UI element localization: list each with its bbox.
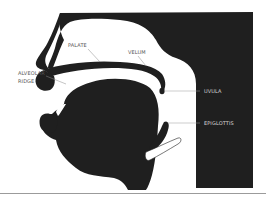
uvula-shape [159,88,164,94]
label-alveolar-line2: RIDGE [18,78,34,84]
tongue [41,79,158,190]
lower-lip [39,114,57,133]
label-uvula: UVULA [204,88,222,94]
palate-leader [88,49,100,62]
label-alveolar-line1: ALVEOLAR [18,70,45,76]
label-epiglottis: EPIGLOTTIS [204,120,234,126]
vocal-tract-diagram: PALATE VELUM ALVEOLAR RIDGE UVULA EPIGLO… [0,0,266,197]
label-velum: VELUM [128,49,146,55]
label-palate: PALATE [68,42,87,48]
nose-outline [36,13,60,70]
bottom-divider [0,193,266,194]
